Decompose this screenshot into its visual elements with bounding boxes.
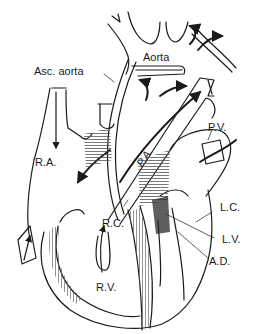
label-rc: R.C. (102, 218, 124, 229)
inferior-vena-cava (18, 226, 36, 264)
aortic-arch (108, 12, 236, 74)
label-aorta: Aorta (143, 52, 169, 63)
label-ra: R.A. (35, 157, 56, 168)
label-lv: L.V. (222, 234, 241, 245)
label-rv: R.V. (96, 282, 116, 293)
label-ad: A.D. (209, 256, 230, 267)
label-asc-aorta: Asc. aorta (34, 66, 84, 77)
label-lc: L.C. (220, 202, 240, 213)
right-ventricle (41, 190, 212, 328)
label-pv: P.V. (208, 122, 226, 133)
